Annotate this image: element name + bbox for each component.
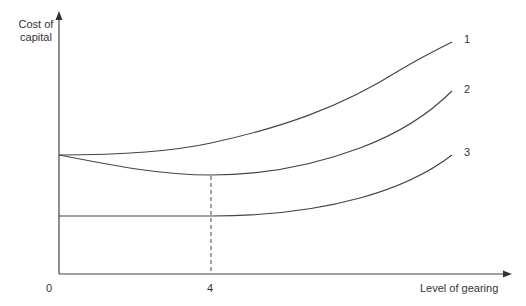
y-axis-label: Cost of capital: [14, 18, 58, 43]
origin-label: 0: [46, 282, 52, 295]
curve-3-label: 3: [464, 146, 470, 159]
curve-3: [59, 155, 452, 216]
curve-2: [59, 91, 452, 175]
cost-of-capital-diagram: [0, 0, 526, 306]
curve-1: [59, 42, 452, 155]
x-axis-arrow-icon: [503, 271, 512, 278]
curve-2-label: 2: [464, 83, 470, 96]
tick-4-label: 4: [207, 282, 213, 295]
y-axis-label-line2: capital: [14, 31, 58, 44]
curve-1-label: 1: [464, 33, 470, 46]
x-axis-label: Level of gearing: [420, 282, 498, 295]
y-axis-label-line1: Cost of: [14, 18, 58, 31]
